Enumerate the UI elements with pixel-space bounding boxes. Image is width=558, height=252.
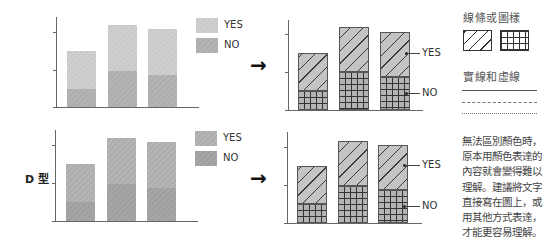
bar-segment-no — [338, 186, 368, 223]
legend-swatch-no — [195, 151, 217, 166]
legend-label-no: NO — [223, 152, 238, 163]
lines-title: 實線和虛線 — [463, 68, 521, 84]
solid-line-sample — [462, 90, 537, 91]
bar-c — [380, 32, 410, 110]
annotation-line-yes — [407, 53, 420, 54]
dotted-line-sample — [462, 113, 537, 114]
bar-segment-no — [66, 202, 95, 221]
legend-swatch-yes — [196, 18, 218, 33]
y-tick — [53, 32, 56, 33]
bar-segment-yes — [297, 166, 327, 204]
legend-label-no: NO — [224, 39, 239, 50]
note-line: 才能更容易理解。 — [462, 225, 558, 240]
dashed-line-sample — [462, 102, 537, 103]
y-tick — [285, 34, 288, 35]
legend-swatch-no — [196, 38, 218, 53]
bar-segment-no — [297, 204, 327, 223]
bar-segment-yes — [147, 142, 176, 188]
direct-label-yes: YES — [422, 159, 441, 170]
bar-segment-no — [148, 75, 177, 107]
bar-segment-yes — [107, 138, 136, 184]
direct-label-no: NO — [422, 200, 437, 211]
x-axis — [284, 223, 422, 224]
bar-segment-no — [108, 71, 137, 107]
legend-swatch-yes — [195, 131, 217, 146]
arrow-right-icon: → — [250, 55, 267, 75]
y-tick — [53, 70, 56, 71]
bar-segment-no — [147, 188, 176, 221]
x-axis — [53, 107, 199, 108]
patterns-title: 線條或圖樣 — [463, 9, 521, 25]
bar-c — [148, 29, 177, 107]
bar-b — [107, 138, 136, 221]
note-line: 用其他方式表達， — [462, 210, 558, 225]
annotation-line-yes — [405, 165, 420, 166]
bar-segment-yes — [66, 164, 95, 202]
direct-label-no: NO — [422, 87, 437, 98]
bar-c — [147, 142, 176, 221]
bar-segment-yes — [148, 29, 177, 75]
x-axis — [285, 110, 423, 111]
bar-segment-no — [339, 72, 369, 110]
arrow-right-icon: → — [250, 168, 267, 188]
y-tick — [52, 145, 55, 146]
explanation-note: 無法區別顏色時， 原本用顏色表達的 內容就會變得難以 理解。建議將文字 直接寫在… — [462, 134, 558, 240]
annotation-line-no — [407, 93, 420, 94]
bar-segment-yes — [108, 25, 137, 71]
bar-a — [298, 53, 328, 110]
bar-b — [338, 141, 368, 223]
bar-segment-yes — [338, 141, 368, 186]
grid-pattern-sample — [500, 30, 529, 51]
legend-label-yes: YES — [224, 19, 243, 30]
note-line: 原本用顏色表達的 — [462, 149, 558, 164]
bar-a — [66, 164, 95, 221]
y-tick — [52, 183, 55, 184]
y-tick — [284, 185, 287, 186]
y-tick — [284, 147, 287, 148]
bar-segment-yes — [378, 145, 408, 190]
annotation-line-no — [405, 206, 420, 207]
direct-label-yes: YES — [422, 47, 441, 58]
bar-a — [67, 51, 96, 107]
bar-segment-no — [107, 184, 136, 221]
legend-label-yes: YES — [223, 132, 242, 143]
note-line: 內容就會變得難以 — [462, 164, 558, 179]
x-axis — [52, 221, 198, 222]
y-axis — [287, 132, 288, 223]
hatch-pattern-sample — [463, 30, 492, 51]
bar-segment-no — [298, 91, 328, 110]
bar-segment-no — [67, 89, 96, 107]
bar-a — [297, 166, 327, 223]
d-type-label: D 型 — [25, 170, 49, 186]
bar-segment-yes — [339, 27, 369, 72]
bar-b — [108, 25, 137, 107]
note-line: 無法區別顏色時， — [462, 134, 558, 149]
bar-segment-yes — [298, 53, 328, 91]
note-line: 直接寫在圖上，或 — [462, 195, 558, 210]
bar-b — [339, 27, 369, 110]
bar-segment-yes — [67, 51, 96, 89]
y-axis — [56, 17, 57, 108]
y-tick — [285, 72, 288, 73]
bar-c — [378, 145, 408, 223]
y-axis — [55, 130, 56, 221]
note-line: 理解。建議將文字 — [462, 180, 558, 195]
y-axis — [288, 20, 289, 110]
